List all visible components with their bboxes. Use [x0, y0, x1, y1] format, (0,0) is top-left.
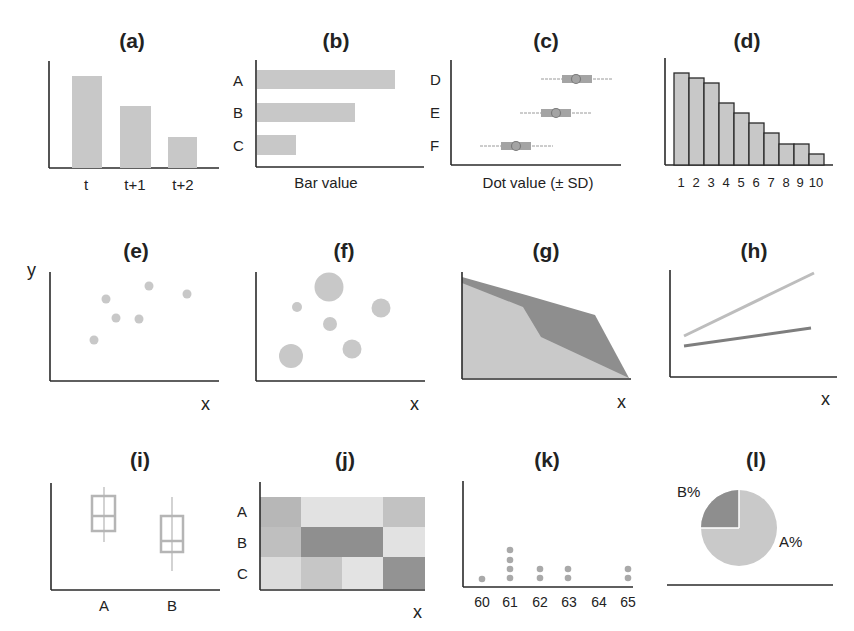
panel-c: (c) D E F Dot value (± SD) [430, 29, 621, 191]
bar-C [257, 135, 296, 155]
point [112, 314, 121, 323]
bin-7 [764, 133, 779, 165]
dot-F [512, 142, 521, 151]
point [145, 282, 154, 291]
panel-k-title: (k) [534, 448, 560, 471]
panel-h-title: (h) [741, 239, 768, 262]
pie-label-A: A% [779, 533, 802, 550]
x-tick: 2 [692, 175, 699, 190]
x-tick: 6 [752, 175, 759, 190]
y-tick: D [430, 71, 441, 88]
bubbles [279, 273, 391, 369]
x-tick: 3 [707, 175, 714, 190]
bubble [343, 340, 362, 359]
box-B [161, 497, 183, 571]
x-tick: 64 [591, 594, 607, 610]
x-axis-label: Dot value (± SD) [483, 174, 594, 191]
panel-d: (d) 1 2 3 4 5 6 7 8 9 10 [665, 29, 833, 190]
box-A [92, 487, 115, 542]
panel-k: (k) 60 61 62 63 64 65 [463, 448, 636, 610]
x-tick: 4 [722, 175, 729, 190]
bar-t2 [168, 137, 197, 168]
bin-8 [779, 144, 794, 165]
bubble [372, 299, 391, 318]
bar-t1 [120, 106, 151, 168]
bubble [315, 273, 344, 302]
x-tick: 1 [677, 175, 684, 190]
y-tick: A [237, 503, 247, 520]
x-tick: 60 [474, 594, 490, 610]
x-tick: 65 [620, 594, 636, 610]
bubble [323, 317, 337, 331]
panel-f: (f) x [256, 239, 425, 414]
panel-d-title: (d) [734, 29, 761, 52]
y-tick: E [430, 104, 440, 121]
y-tick: C [237, 565, 248, 582]
x-axis-label: x [410, 394, 419, 414]
histogram-bars [674, 73, 824, 165]
x-tick: B [167, 597, 177, 614]
panel-a: (a) t t+1 t+2 [49, 29, 219, 193]
chart-grid: (a) t t+1 t+2 (b) A B C Bar value (c) D … [0, 0, 854, 631]
y-tick: A [233, 72, 243, 89]
panel-b-title: (b) [323, 29, 350, 52]
panel-l-title: (l) [746, 448, 766, 471]
x-axis-label: x [617, 392, 626, 412]
x-tick: A [99, 597, 109, 614]
panel-i-title: (i) [130, 448, 150, 471]
bar-B [257, 103, 355, 122]
y-tick: C [233, 137, 244, 154]
panel-e-title: (e) [123, 239, 149, 262]
panel-b: (b) A B C Bar value [233, 29, 424, 191]
y-tick: F [430, 137, 439, 154]
x-tick: 62 [532, 594, 548, 610]
bin-3 [704, 83, 719, 165]
dot-stacks [479, 547, 632, 583]
bubble [292, 302, 302, 312]
point [183, 290, 192, 299]
panel-a-title: (a) [119, 29, 145, 52]
panel-g: (g) x [462, 239, 631, 412]
bin-2 [689, 78, 704, 165]
point [135, 315, 144, 324]
x-tick: t+1 [124, 176, 145, 193]
bar-t [72, 76, 102, 168]
y-tick: B [233, 104, 243, 121]
x-tick: 8 [782, 175, 789, 190]
bin-5 [734, 113, 749, 165]
dot-D [572, 75, 581, 84]
bar-A [257, 70, 395, 89]
line-light [684, 273, 814, 336]
bin-6 [749, 123, 764, 165]
heatmap-cells [260, 497, 425, 589]
point [102, 295, 111, 304]
point [90, 336, 99, 345]
line-dark [684, 328, 811, 346]
dot-E [552, 109, 561, 118]
panel-f-title: (f) [334, 239, 355, 262]
y-axis-label: y [27, 260, 36, 280]
x-tick: 61 [502, 594, 518, 610]
x-axis-label: x [821, 389, 830, 409]
x-axis-label: Bar value [294, 174, 357, 191]
panel-l: (l) B% A% [667, 448, 833, 585]
x-tick: 9 [796, 175, 803, 190]
panel-j-title: (j) [335, 448, 355, 471]
x-axis-label: x [201, 394, 210, 414]
panel-e: (e) y x [27, 239, 219, 414]
panel-g-title: (g) [533, 239, 560, 262]
bin-4 [719, 103, 734, 165]
y-tick: B [237, 534, 247, 551]
panel-h: (h) x [670, 239, 837, 409]
panel-i: (i) A B [51, 448, 220, 614]
x-tick: t+2 [172, 176, 193, 193]
bin-1 [674, 73, 689, 165]
x-tick: t [84, 176, 89, 193]
panel-c-title: (c) [533, 29, 559, 52]
pie-label-B: B% [677, 483, 700, 500]
x-tick: 5 [737, 175, 744, 190]
bubble [279, 344, 303, 368]
x-tick: 63 [561, 594, 577, 610]
pie-slice-B [701, 490, 739, 528]
bin-10 [809, 154, 824, 165]
